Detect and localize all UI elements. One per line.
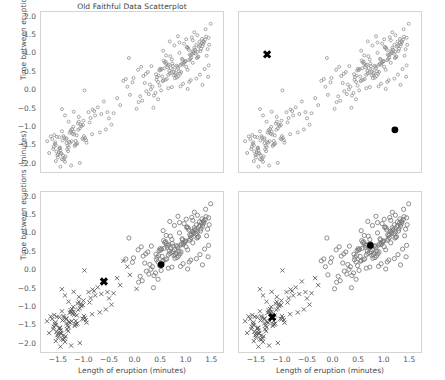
data-point bbox=[69, 343, 73, 347]
y-axis-label-bottom-wrap: Time between eruptions (minutes) bbox=[2, 191, 14, 353]
data-point bbox=[169, 55, 172, 58]
data-point bbox=[94, 114, 97, 117]
data-point bbox=[150, 65, 153, 68]
data-point bbox=[148, 83, 151, 86]
data-point bbox=[83, 89, 86, 92]
data-point bbox=[287, 117, 290, 120]
data-point bbox=[334, 248, 338, 252]
data-point bbox=[54, 160, 57, 163]
data-point bbox=[144, 269, 148, 273]
data-point bbox=[404, 255, 408, 259]
data-point bbox=[104, 128, 107, 131]
data-point bbox=[363, 54, 366, 57]
data-point bbox=[245, 331, 249, 335]
data-point bbox=[77, 295, 81, 299]
data-point bbox=[124, 257, 128, 261]
data-point bbox=[140, 65, 143, 68]
centroid-x bbox=[264, 51, 270, 57]
data-point bbox=[63, 293, 67, 297]
data-point bbox=[90, 312, 94, 316]
data-point bbox=[341, 82, 344, 85]
centroid-circle bbox=[367, 242, 374, 249]
data-point bbox=[170, 58, 173, 61]
data-point bbox=[275, 295, 279, 299]
data-point bbox=[106, 111, 109, 114]
data-point bbox=[162, 49, 165, 52]
data-point bbox=[131, 256, 135, 260]
x-axis-label-right: Length of eruption (minutes) bbox=[238, 366, 422, 375]
data-point bbox=[170, 86, 173, 89]
data-point bbox=[289, 133, 292, 136]
data-point bbox=[168, 219, 172, 223]
data-point bbox=[324, 85, 327, 88]
data-point bbox=[399, 83, 402, 86]
data-point bbox=[166, 66, 169, 69]
data-point bbox=[107, 296, 111, 300]
data-point bbox=[335, 101, 338, 104]
data-point bbox=[109, 303, 113, 307]
data-point bbox=[45, 319, 49, 323]
data-point bbox=[177, 231, 181, 235]
data-point bbox=[52, 313, 56, 317]
data-point bbox=[161, 229, 165, 233]
data-point bbox=[176, 214, 180, 218]
data-point bbox=[303, 290, 307, 294]
data-point bbox=[185, 38, 188, 41]
data-point bbox=[342, 72, 345, 75]
data-point bbox=[370, 223, 374, 227]
data-point bbox=[60, 309, 64, 313]
data-point bbox=[316, 283, 320, 287]
data-point bbox=[48, 152, 51, 155]
data-point bbox=[184, 217, 188, 221]
data-point bbox=[258, 130, 261, 133]
scatter-points-converged bbox=[239, 192, 421, 352]
data-point bbox=[276, 161, 279, 164]
data-point bbox=[405, 75, 408, 78]
data-point bbox=[368, 86, 371, 89]
data-point bbox=[118, 283, 122, 287]
data-point bbox=[191, 39, 194, 42]
data-point bbox=[138, 274, 142, 278]
data-point bbox=[93, 293, 97, 297]
scatter-points-raw bbox=[41, 12, 223, 172]
data-point bbox=[296, 310, 300, 314]
data-point bbox=[70, 164, 73, 167]
data-point bbox=[338, 279, 342, 283]
data-point bbox=[375, 220, 379, 224]
data-point bbox=[185, 65, 188, 68]
data-point bbox=[100, 112, 103, 115]
data-point bbox=[405, 64, 408, 67]
data-point bbox=[159, 268, 163, 272]
data-point bbox=[265, 325, 269, 329]
data-point bbox=[169, 66, 172, 69]
data-point bbox=[380, 82, 383, 85]
data-point bbox=[136, 248, 140, 252]
data-point bbox=[89, 117, 92, 120]
data-point bbox=[168, 40, 171, 43]
data-point bbox=[152, 106, 155, 109]
data-point bbox=[302, 307, 306, 311]
data-point bbox=[368, 58, 371, 61]
data-point bbox=[340, 75, 343, 78]
data-point bbox=[376, 41, 379, 44]
data-point bbox=[362, 233, 366, 237]
data-point bbox=[404, 227, 408, 231]
data-point bbox=[102, 100, 105, 103]
data-point bbox=[376, 264, 380, 268]
data-point bbox=[281, 89, 284, 92]
data-point bbox=[384, 267, 388, 271]
centroid-x bbox=[101, 278, 107, 284]
data-point bbox=[252, 160, 255, 163]
data-point bbox=[206, 227, 210, 231]
data-point bbox=[141, 99, 144, 102]
data-point bbox=[407, 202, 411, 206]
data-point bbox=[377, 85, 380, 88]
data-point bbox=[252, 339, 256, 343]
data-point bbox=[105, 290, 109, 294]
data-point bbox=[143, 82, 146, 85]
data-point bbox=[330, 76, 333, 79]
data-point bbox=[326, 93, 329, 96]
data-point bbox=[343, 90, 346, 93]
data-point bbox=[140, 279, 144, 283]
data-point bbox=[88, 121, 91, 124]
